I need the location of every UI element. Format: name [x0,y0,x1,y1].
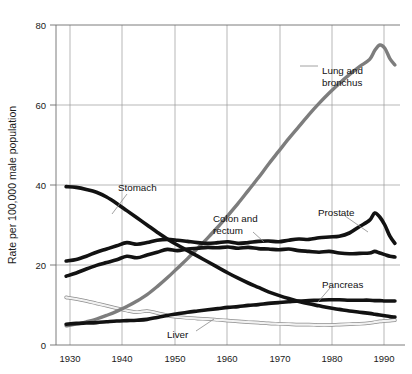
series-label-lung-line1: Lung and [322,65,363,76]
y-axis-ticks [50,25,56,345]
x-tick-label: 1940 [111,353,132,364]
x-tick-label: 1980 [321,353,342,364]
y-tick-label: 20 [35,260,46,271]
x-tick-label: 1990 [373,353,394,364]
cancer-death-rate-chart: 80 60 40 20 0 Rate per 100,000 male popu… [0,0,412,374]
x-axis-tick-labels: 1930 1940 1950 1960 1970 1980 1990 [59,353,394,364]
series-label-liver: Liver [167,329,189,340]
y-axis-title: Rate per 100,000 male population [6,106,18,264]
x-tick-label: 1950 [164,353,185,364]
series-label-prostate: Prostate [318,207,355,218]
x-tick-label: 1930 [59,353,80,364]
y-tick-label: 60 [35,100,46,111]
y-axis-tick-labels: 80 60 40 20 0 [35,20,46,351]
series-label-stomach: Stomach [118,182,157,193]
series-label-pancreas: Pancreas [322,279,363,290]
y-tick-label: 80 [35,20,46,31]
series-label-lung-line2: bronchus [322,77,362,88]
series-label-colon-line1: Colon and [213,213,258,224]
y-tick-label: 0 [41,340,46,351]
series-label-colon-line2: rectum [213,225,243,236]
chart-svg: 80 60 40 20 0 Rate per 100,000 male popu… [0,0,412,374]
x-tick-label: 1960 [216,353,237,364]
y-tick-label: 40 [35,180,46,191]
x-tick-label: 1970 [269,353,290,364]
